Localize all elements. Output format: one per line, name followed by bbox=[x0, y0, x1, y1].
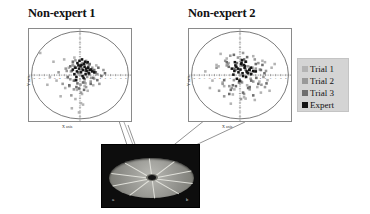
legend-swatch-trial-1 bbox=[302, 66, 308, 72]
legend: Trial 1 Trial 2 Trial 3 Expert bbox=[297, 58, 349, 112]
photo-hub bbox=[148, 175, 156, 180]
legend-label-trial-1: Trial 1 bbox=[310, 64, 334, 75]
svg-text:9: 9 bbox=[125, 77, 127, 80]
svg-text:5: 5 bbox=[105, 77, 107, 80]
svg-text:-8: -8 bbox=[38, 77, 41, 80]
svg-text:4: 4 bbox=[260, 77, 262, 80]
legend-label-trial-2: Trial 2 bbox=[310, 76, 334, 87]
svg-text:4: 4 bbox=[100, 77, 102, 80]
svg-text:8: 8 bbox=[280, 77, 282, 80]
target-photograph: a b bbox=[101, 144, 200, 208]
legend-swatch-expert bbox=[302, 102, 308, 108]
svg-text:-2: -2 bbox=[229, 77, 232, 80]
panel-title-2: Non-expert 2 bbox=[188, 6, 255, 21]
legend-item-expert: Expert bbox=[302, 99, 343, 111]
plot-box-2: -9-8-7-6-5-4-3-2-10123456789 bbox=[188, 28, 292, 122]
svg-text:7: 7 bbox=[275, 77, 277, 80]
svg-text:6: 6 bbox=[270, 77, 272, 80]
y-axis-label-1: Y axis bbox=[26, 76, 31, 86]
svg-text:-5: -5 bbox=[213, 77, 216, 80]
photo-label-right: b bbox=[186, 197, 188, 202]
legend-item-trial-3: Trial 3 bbox=[302, 87, 343, 99]
svg-text:-9: -9 bbox=[193, 77, 196, 80]
legend-swatch-trial-2 bbox=[302, 78, 308, 84]
svg-text:9: 9 bbox=[285, 77, 287, 80]
svg-text:8: 8 bbox=[120, 77, 122, 80]
x-axis-label-1: X axis bbox=[62, 124, 72, 129]
svg-text:-9: -9 bbox=[33, 77, 36, 80]
legend-swatch-trial-3 bbox=[302, 90, 308, 96]
svg-text:-4: -4 bbox=[59, 77, 62, 80]
svg-text:-3: -3 bbox=[64, 77, 67, 80]
svg-text:-7: -7 bbox=[203, 77, 206, 80]
svg-text:-7: -7 bbox=[43, 77, 46, 80]
legend-item-trial-2: Trial 2 bbox=[302, 75, 343, 87]
panel-non-expert-2: Non-expert 2 -9-8-7-6-5-4-3-2-1012345678… bbox=[178, 4, 308, 139]
panel-title-1: Non-expert 1 bbox=[28, 6, 95, 21]
legend-label-trial-3: Trial 3 bbox=[310, 88, 334, 99]
svg-text:-6: -6 bbox=[208, 77, 211, 80]
legend-label-expert: Expert bbox=[310, 100, 334, 111]
svg-text:-8: -8 bbox=[198, 77, 201, 80]
plot-box-1: -9-8-7-6-5-4-3-2-10123456789 bbox=[28, 28, 132, 122]
legend-item-trial-1: Trial 1 bbox=[302, 63, 343, 75]
plot-svg-2: -9-8-7-6-5-4-3-2-10123456789 bbox=[189, 29, 291, 121]
figure-root: Non-expert 1 -9-8-7-6-5-4-3-2-1012345678… bbox=[0, 0, 370, 214]
y-axis-label-2: Y axis bbox=[186, 76, 191, 86]
svg-text:6: 6 bbox=[110, 77, 112, 80]
svg-text:7: 7 bbox=[115, 77, 117, 80]
panel-non-expert-1: Non-expert 1 -9-8-7-6-5-4-3-2-1012345678… bbox=[18, 4, 148, 139]
photo-label-left: a bbox=[112, 197, 114, 202]
plot-svg-1: -9-8-7-6-5-4-3-2-10123456789 bbox=[29, 29, 131, 121]
svg-text:-4: -4 bbox=[219, 77, 222, 80]
x-axis-label-2: X axis bbox=[222, 124, 232, 129]
